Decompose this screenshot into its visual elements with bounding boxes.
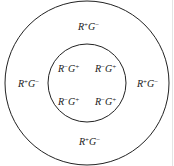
outer-label-left: R+G− xyxy=(18,79,39,89)
inner-label-top-right: R−G+ xyxy=(95,64,116,74)
outer-label-top: R+G− xyxy=(78,22,99,32)
outer-label-right: R+G− xyxy=(137,79,158,89)
inner-label-top-left: R−G+ xyxy=(58,64,79,74)
inner-label-bottom-right: R−G+ xyxy=(95,97,116,107)
inner-label-bottom-left: R−G+ xyxy=(58,97,79,107)
inner-circle xyxy=(48,44,126,122)
outer-label-bottom: R+G− xyxy=(79,137,100,147)
